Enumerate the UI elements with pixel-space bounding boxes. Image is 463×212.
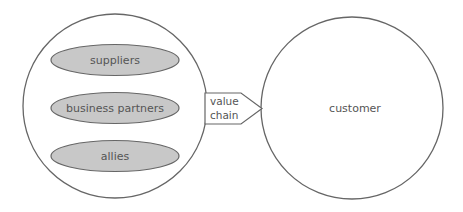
- value-chain-label-line2: chain: [210, 109, 238, 121]
- allies-label: allies: [101, 150, 130, 163]
- suppliers-label: suppliers: [90, 54, 140, 67]
- value-chain-label-line1: value: [210, 95, 239, 107]
- ellipse-suppliers: suppliers: [51, 45, 179, 76]
- ellipse-business-partners: business partners: [51, 93, 179, 124]
- value-chain-diagram: suppliers business partners allies custo…: [0, 0, 463, 212]
- customer-label: customer: [329, 102, 381, 115]
- value-chain-arrow: value chain: [205, 93, 262, 124]
- business-partners-label: business partners: [66, 102, 164, 115]
- ellipse-allies: allies: [51, 141, 179, 172]
